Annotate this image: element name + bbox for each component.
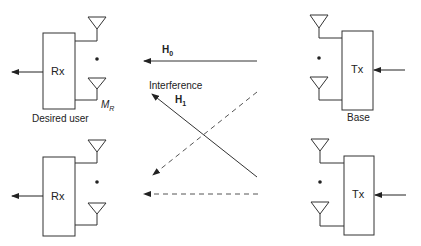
rx-top-label: Rx [51,65,64,77]
link-cross-dashed-arrow [153,92,257,175]
antenna-icon [88,17,106,29]
rx-top-antenna-2-feed [75,89,97,100]
rx-bottom-antenna-1-feed [75,152,97,163]
h0-label: H0 [162,44,173,57]
rx-top-antenna-1-feed [75,29,97,41]
tx-bottom-group [311,139,406,235]
antenna-icon [88,140,106,152]
link-h1-arrow [152,94,257,177]
antenna-icon [311,202,329,214]
rx-bottom-group [12,140,106,236]
rx-bottom-label: Rx [51,190,64,202]
antenna-icon [88,78,106,89]
tx-bottom-antenna-1-feed [320,151,344,163]
antenna-icon [310,77,328,89]
mr-sub: R [109,105,114,112]
antenna-icon [88,203,106,214]
ellipsis-dot [95,57,99,61]
tx-top-antenna-1-feed [319,28,342,38]
interference-label: Interference [149,80,202,91]
tx-top-label: Tx [351,63,363,75]
h0-sub: 0 [169,50,173,57]
antenna-count-label: MR [101,99,114,112]
desired-user-caption: Desired user [32,113,89,124]
base-caption: Base [347,112,370,123]
ellipsis-dot [318,180,322,184]
ellipsis-dot [317,56,321,60]
tx-bottom-label: Tx [352,188,364,200]
antenna-icon [310,15,328,28]
h1-label: H1 [175,94,186,107]
h1-sub: 1 [182,100,186,107]
tx-top-antenna-2-feed [319,89,342,100]
rx-bottom-antenna-2-feed [75,214,97,225]
ellipsis-dot [95,180,99,184]
tx-bottom-antenna-2-feed [320,214,344,226]
antenna-icon [311,139,329,151]
rx-top-group [12,17,106,109]
